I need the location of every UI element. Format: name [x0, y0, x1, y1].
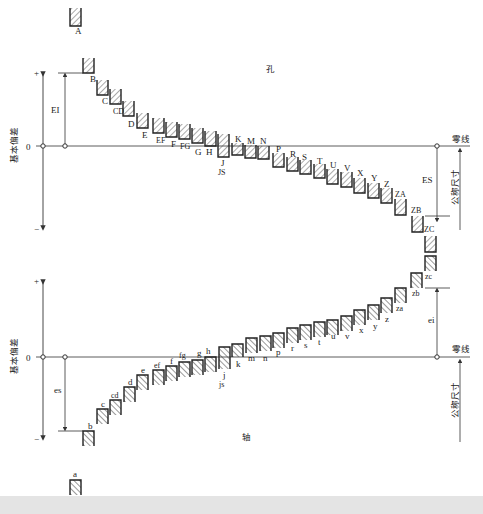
hole-zone-v: V — [341, 163, 352, 187]
shaft-zone-label: cd — [111, 391, 119, 400]
hole-zone-label: A — [75, 26, 82, 36]
shaft-zone-hatch — [110, 400, 121, 415]
hole-zone-z: Z — [381, 179, 392, 203]
shaft-zone-hatch — [166, 366, 177, 381]
hole-zone-hatch — [258, 146, 269, 159]
shaft-zone-zc: zc — [425, 256, 436, 281]
hole-zone-label: B — [90, 74, 96, 84]
hole-zone-label: V — [344, 163, 351, 173]
shaft-zone-e: e — [137, 365, 148, 390]
hole-zone-hatch — [70, 8, 81, 26]
shaft-zone-label: a — [73, 469, 77, 479]
shaft-zone-hatch — [354, 310, 365, 325]
shaft-zone-hatch — [300, 325, 311, 340]
hole-zone-hatch — [412, 216, 423, 232]
hole-zone-hatch — [368, 183, 379, 198]
hole-zone-hatch — [83, 58, 94, 73]
shaft-zone-ef: ef — [153, 361, 164, 385]
page-footer-strip — [0, 496, 483, 514]
hole-zone-hatch — [327, 169, 338, 184]
shaft-zone-label: zb — [412, 289, 420, 298]
hole-zone-hatch — [300, 160, 311, 174]
hole-section: 孔 + − 0 基本偏差 零线 EI ES 公称尺寸 ABCCDDEEFFFGG… — [9, 8, 470, 252]
hole-title: 孔 — [266, 64, 275, 74]
shaft-deviation-zones: zczbzazyxvutsrpnmkjjshgfgfefedcdcba — [70, 256, 436, 495]
shaft-zone-label: e — [141, 365, 145, 375]
shaft-zone-hatch — [411, 273, 422, 288]
hole-zone-hatch — [273, 153, 284, 167]
hole-zone-label: EF — [156, 136, 166, 145]
hole-ylabel: 基本偏差 — [9, 127, 19, 163]
shaft-zone-label: v — [345, 331, 350, 341]
shaft-zone-t: t — [314, 322, 325, 347]
shaft-zone-hatch — [287, 328, 298, 343]
hole-nominal-size-label: 公称尺寸 — [450, 169, 460, 205]
hole-zone-b: B — [83, 58, 96, 84]
hole-zone-d: D — [123, 101, 135, 129]
shaft-zone-hatch — [341, 316, 352, 331]
hole-zone-hatch — [425, 236, 436, 252]
shaft-zone-label: g — [197, 348, 202, 358]
hole-deviation-zones: ABCCDDEEFFFGGHJJSKMNPRSTUVXYZZAZBZC — [70, 8, 436, 252]
shaft-zone-hatch — [179, 362, 190, 377]
hole-zone-hatch — [314, 164, 325, 178]
shaft-zone-v: v — [341, 316, 352, 341]
hole-minus-sign: − — [34, 224, 39, 234]
hole-zone-label: FG — [180, 142, 190, 151]
shaft-zone-label: h — [206, 346, 211, 356]
shaft-zone-hatch — [219, 347, 230, 369]
shaft-zone-hatch — [232, 344, 243, 357]
hole-zone-label: ZC — [424, 225, 434, 234]
hole-zone-label: C — [102, 96, 108, 106]
shaft-zone-label: d — [128, 377, 133, 387]
hole-zone-label: X — [357, 168, 364, 178]
hole-zone-t: T — [314, 156, 325, 178]
hole-zone-cd: CD — [110, 89, 124, 116]
hole-zone-label: ZB — [411, 206, 421, 215]
shaft-zone-hatch — [260, 336, 271, 351]
shaft-zone-fg: fg — [179, 351, 190, 377]
hole-ei-origin-marker — [63, 144, 67, 148]
shaft-zero-line-label: 零线 — [452, 344, 470, 354]
hole-zone-label: J — [221, 158, 225, 168]
shaft-zone-label: z — [385, 314, 389, 324]
shaft-zone-hatch — [137, 375, 148, 390]
hole-zone-js: JS — [218, 168, 226, 177]
shaft-zone-za: za — [395, 288, 406, 313]
shaft-zone-label: m — [248, 353, 255, 363]
shaft-zone-label: n — [263, 353, 268, 363]
shaft-zone-hatch — [192, 360, 203, 375]
hole-zone-hatch — [205, 131, 216, 146]
hole-plus-sign: + — [34, 68, 39, 78]
hole-zone-label: ZA — [395, 190, 406, 199]
hole-zone-label: R — [290, 149, 296, 159]
hole-zone-j: J — [218, 134, 229, 168]
shaft-minus-sign: − — [34, 434, 39, 444]
shaft-zone-hatch — [395, 288, 406, 303]
shaft-ylabel: 基本偏差 — [9, 338, 19, 374]
shaft-zone-label: js — [218, 380, 224, 389]
shaft-zone-j: j — [219, 347, 230, 380]
hole-zone-hatch — [153, 118, 164, 133]
hole-zone-label: P — [276, 144, 281, 154]
shaft-zone-hatch — [97, 409, 108, 424]
hole-zone-a: A — [70, 8, 82, 36]
shaft-zone-h: h — [205, 346, 216, 372]
shaft-zone-d: d — [124, 377, 135, 402]
hole-zone-label: G — [195, 147, 202, 157]
hole-zone-x: X — [354, 168, 365, 193]
shaft-zone-label: za — [396, 304, 404, 313]
hole-zone-y: Y — [368, 173, 379, 198]
shaft-ei-label: ei — [428, 315, 435, 325]
shaft-zone-hatch — [124, 387, 135, 402]
hole-zone-label: K — [235, 134, 242, 144]
shaft-zero-label: 0 — [26, 353, 31, 363]
shaft-zone-cd: cd — [110, 391, 121, 415]
hole-zero-line-label: 零线 — [452, 134, 470, 144]
shaft-zone-label: t — [318, 337, 321, 347]
hole-zone-hatch — [192, 128, 203, 143]
shaft-zone-f: f — [166, 356, 177, 381]
shaft-zone-label: k — [236, 359, 241, 369]
shaft-zone-js: js — [218, 380, 224, 389]
shaft-zone-hatch — [273, 333, 284, 348]
